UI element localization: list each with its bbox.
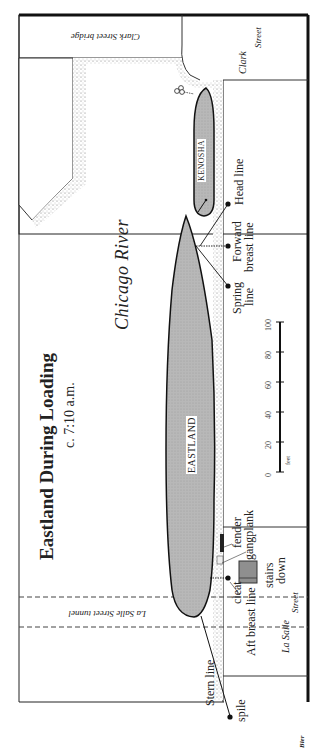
clark-street-label-2: Street: [253, 27, 263, 48]
stairs-label-2: down: [274, 557, 289, 584]
la-salle-street-label-2: Street: [290, 592, 300, 613]
scale-tick-80: 80: [264, 351, 273, 359]
scale-tick-100: 100: [264, 319, 273, 331]
river-label: Chicago River: [112, 219, 133, 330]
artist-signature: Bier: [298, 736, 306, 748]
la-salle-tunnel-label: La Salle Street tunnel: [69, 609, 146, 619]
stairs: [239, 561, 257, 583]
clark-street-label-1: Clark: [237, 51, 248, 74]
scale-tick-20: 20: [264, 441, 273, 449]
map-figure: Eastland During Loading c. 7:10 a.m. Chi…: [0, 0, 326, 752]
map-subtitle: c. 7:10 a.m.: [62, 382, 78, 448]
scale-tick-60: 60: [264, 381, 273, 389]
head-line-label: Head line: [232, 159, 247, 205]
eastland-label: EASTLAND: [186, 416, 197, 474]
la-salle-street-label-1: La Salle: [280, 620, 291, 653]
map-title: Eastland During Loading: [36, 353, 58, 560]
clark-street-bridge-label: Clark Street bridge: [71, 32, 140, 42]
cleat: [225, 575, 230, 580]
forward-breast-line-label-2: breast line: [242, 222, 257, 272]
fender: [220, 534, 224, 552]
stern-line-label: Stern line: [203, 660, 218, 706]
cleat-label: cleat: [230, 581, 245, 604]
aft-breast-line-label: Aft breast line: [244, 587, 259, 656]
kenosha-label: KENOSHA: [197, 139, 206, 182]
scale-bar: [276, 322, 284, 472]
spile-label: spile: [234, 699, 249, 722]
scale-unit: feet: [285, 456, 291, 465]
pilings-icon: [175, 86, 194, 95]
scale-tick-40: 40: [264, 411, 273, 419]
gangplank-label: gangplank: [242, 510, 257, 560]
scale-tick-0: 0: [264, 473, 273, 477]
spile: [227, 714, 232, 719]
spring-line-label-2: line: [242, 288, 257, 306]
